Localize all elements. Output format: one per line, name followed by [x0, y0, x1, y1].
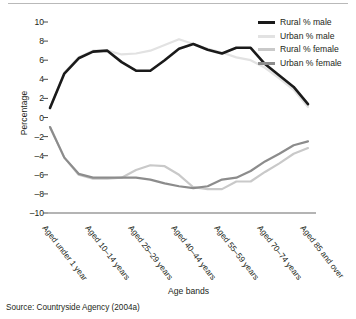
legend-label: Urban % female — [280, 57, 342, 71]
figure-container: Percentage 1086420–2–4–6–8–10 Aged under… — [0, 0, 356, 319]
legend-label: Rural % female — [280, 43, 339, 57]
legend-item: Rural % male — [258, 16, 342, 30]
legend-swatch-icon — [258, 21, 275, 24]
x-axis-title: Age bands — [168, 286, 209, 296]
legend-swatch-icon — [258, 35, 275, 38]
legend-label: Rural % male — [280, 16, 332, 30]
source-note: Source: Countryside Agency (2004a) — [6, 303, 140, 312]
legend-item: Rural % female — [258, 43, 342, 57]
y-axis-ticks — [43, 22, 48, 213]
series-line-urban-female — [50, 127, 308, 188]
chart-legend: Rural % maleUrban % maleRural % femaleUr… — [258, 16, 342, 70]
legend-item: Urban % male — [258, 30, 342, 44]
legend-swatch-icon — [258, 48, 275, 51]
legend-swatch-icon — [258, 62, 275, 65]
legend-item: Urban % female — [258, 57, 342, 71]
legend-label: Urban % male — [280, 30, 334, 44]
